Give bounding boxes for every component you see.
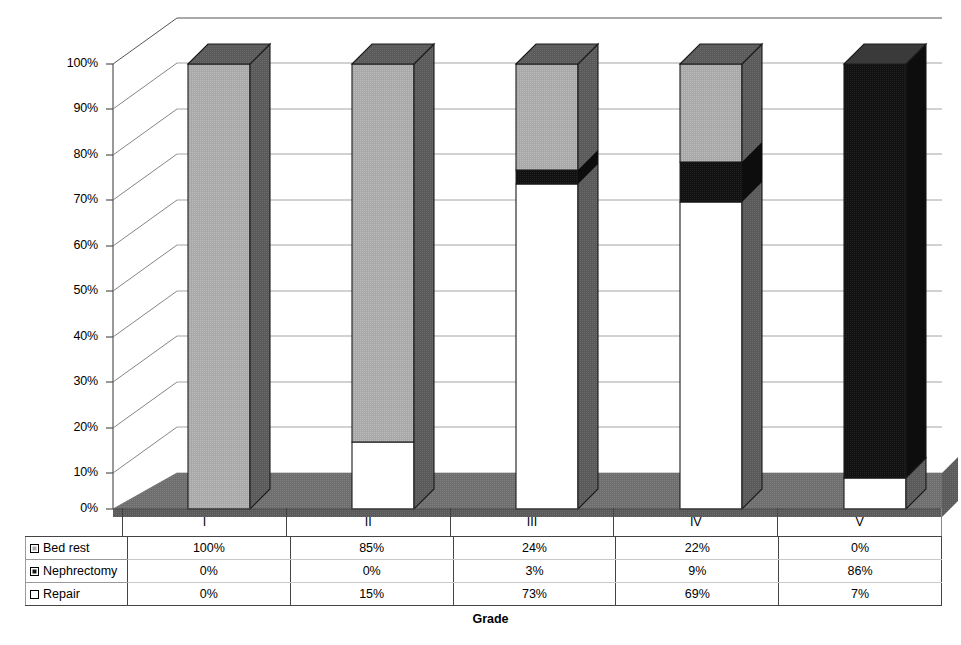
cell-repair-I: 0% xyxy=(128,583,291,606)
legend-swatch-repair-icon xyxy=(30,590,39,599)
ytick-label-0: 0% xyxy=(38,501,98,515)
category-header-II: II xyxy=(287,508,451,536)
cell-nephrectomy-II: 0% xyxy=(290,560,453,583)
bar-group-I xyxy=(188,44,270,509)
cell-nephrectomy-IV: 9% xyxy=(616,560,779,583)
ytick-label-60: 60% xyxy=(38,238,98,252)
data-table: Bed rest 100% 85% 24% 22% 0% Nephrectomy… xyxy=(25,536,942,606)
bar-group-III xyxy=(516,44,598,509)
cell-nephrectomy-III: 3% xyxy=(453,560,616,583)
cell-bed-rest-II: 85% xyxy=(290,537,453,560)
table-row-bed-rest: Bed rest 100% 85% 24% 22% 0% xyxy=(26,537,942,560)
category-header-III: III xyxy=(451,508,615,536)
cell-repair-V: 7% xyxy=(779,583,942,606)
legend-swatch-nephrectomy-icon xyxy=(30,567,39,576)
legend-item-bed-rest: Bed rest xyxy=(26,537,128,560)
cell-repair-III: 73% xyxy=(453,583,616,606)
cell-nephrectomy-I: 0% xyxy=(128,560,291,583)
legend-item-nephrectomy: Nephrectomy xyxy=(26,560,128,583)
chart-plot-area: 100% 90% 80% 70% 60% 50% 40% 30% 20% 10%… xyxy=(0,0,961,530)
cell-nephrectomy-V: 86% xyxy=(779,560,942,583)
legend-label-bed-rest: Bed rest xyxy=(43,541,90,555)
bar-group-IV xyxy=(680,44,762,509)
category-header-IV: IV xyxy=(614,508,778,536)
cell-bed-rest-V: 0% xyxy=(779,537,942,560)
table-row-nephrectomy: Nephrectomy 0% 0% 3% 9% 86% xyxy=(26,560,942,583)
category-header-V: V xyxy=(778,508,941,536)
cell-bed-rest-III: 24% xyxy=(453,537,616,560)
legend-swatch-bed-rest-icon xyxy=(30,544,39,553)
cell-repair-II: 15% xyxy=(290,583,453,606)
ytick-label-80: 80% xyxy=(38,147,98,161)
ytick-label-100: 100% xyxy=(38,56,98,70)
legend-item-repair: Repair xyxy=(26,583,128,606)
ytick-label-90: 90% xyxy=(38,101,98,115)
chart-svg xyxy=(0,0,961,530)
cell-bed-rest-IV: 22% xyxy=(616,537,779,560)
legend-label-repair: Repair xyxy=(43,587,80,601)
ytick-label-50: 50% xyxy=(38,283,98,297)
ytick-label-30: 30% xyxy=(38,374,98,388)
cell-repair-IV: 69% xyxy=(616,583,779,606)
cell-bed-rest-I: 100% xyxy=(128,537,291,560)
bar-group-V xyxy=(844,44,926,509)
chart-screenshot: 100% 90% 80% 70% 60% 50% 40% 30% 20% 10%… xyxy=(0,0,961,645)
category-header-I: I xyxy=(123,508,287,536)
ytick-label-20: 20% xyxy=(38,420,98,434)
x-axis-title: Grade xyxy=(0,612,961,626)
ytick-label-70: 70% xyxy=(38,192,98,206)
ytick-label-10: 10% xyxy=(38,465,98,479)
ytick-label-40: 40% xyxy=(38,329,98,343)
category-header-row: I II III IV V xyxy=(122,508,942,536)
legend-label-nephrectomy: Nephrectomy xyxy=(43,564,117,578)
table-row-repair: Repair 0% 15% 73% 69% 7% xyxy=(26,583,942,606)
bar-group-II xyxy=(352,44,434,509)
